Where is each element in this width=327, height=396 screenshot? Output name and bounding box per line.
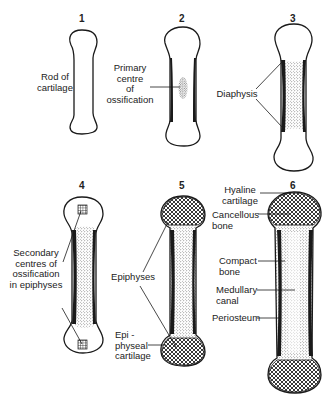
label-hyaline-cartilage: Hyaline cartilage: [218, 185, 262, 206]
stage-number-6: 6: [290, 180, 296, 191]
stage-number-5: 5: [179, 180, 185, 191]
stage-number-4: 4: [79, 180, 85, 191]
label-compact-bone: Compact bone: [219, 256, 259, 277]
label-primary-centre: Primary centre of ossification: [104, 63, 156, 105]
label-periosteum: Periosteum: [212, 313, 260, 324]
label-cancellous-bone: Cancellous bone: [212, 210, 262, 231]
label-secondary-centres: Secondary centres of ossification in epi…: [6, 248, 66, 290]
stage-number-2: 2: [179, 13, 185, 24]
stage-3-bone: [274, 24, 313, 171]
label-epiphyseal-cartilage: Epi - physeal cartilage: [115, 330, 160, 362]
stage-5-bone: [161, 196, 205, 366]
stage-2-bone: [165, 27, 200, 146]
label-rod-of-cartilage: Rod of cartilage: [34, 72, 76, 93]
stage-number-3: 3: [290, 13, 296, 24]
bone-development-diagram: [0, 0, 327, 396]
label-medullary-canal: Medullary canal: [216, 285, 260, 306]
label-diaphysis: Diaphysis: [212, 89, 262, 100]
stage-number-1: 1: [79, 13, 85, 24]
stage-6-bone: [268, 192, 321, 393]
stage-4-bone: [64, 197, 103, 353]
label-epiphyses: Epiphyses: [108, 272, 158, 283]
